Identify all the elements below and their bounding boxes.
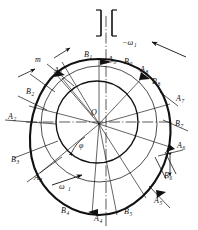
point-letter: B xyxy=(84,50,89,59)
point-subscript: 1 xyxy=(90,54,93,60)
point-subscript: 2 xyxy=(32,91,35,97)
phi-label: φ xyxy=(79,141,84,150)
point-b-b0: B0 xyxy=(124,57,133,67)
point-letter: B xyxy=(124,207,129,216)
point-subscript: 4 xyxy=(67,210,70,216)
point-subscript: 6 xyxy=(170,175,173,181)
point-subscript: 5 xyxy=(160,200,163,206)
fixed-ground-hatch-icon xyxy=(96,10,117,36)
point-letter: A xyxy=(153,196,159,205)
svg-text:ω: ω xyxy=(59,182,65,191)
point-subscript: 4 xyxy=(100,218,103,224)
point-subscript: 2 xyxy=(14,116,17,122)
omega-drive-arrow xyxy=(52,175,82,185)
point-a-a5: A5 xyxy=(153,196,163,206)
point-letter: B xyxy=(61,206,66,215)
svg-text:1: 1 xyxy=(68,186,71,192)
point-subscript: 7 xyxy=(182,98,185,104)
point-b-b7: B7 xyxy=(175,119,184,129)
point-letter: A xyxy=(107,55,113,64)
point-subscript: 3 xyxy=(16,159,20,165)
point-letter: A xyxy=(175,94,181,103)
point-letter: B xyxy=(26,87,31,96)
cam-outer-profile xyxy=(30,59,171,215)
point-subscript: 7 xyxy=(181,123,184,129)
point-b-b1: B1 xyxy=(84,50,93,60)
centre-label: O xyxy=(91,108,97,117)
point-a-a6: A6 xyxy=(176,141,186,151)
point-letter: A xyxy=(93,214,99,223)
omega-driven-arrow xyxy=(152,42,186,57)
point-subscript: 0 xyxy=(130,61,133,67)
point-a-a2: A2 xyxy=(7,112,17,122)
point-letter: B xyxy=(152,77,157,86)
point-subscript: 1 xyxy=(60,70,63,76)
omega-drive-label: ω 1 xyxy=(59,182,71,192)
point-subscript: 3 xyxy=(39,177,43,183)
point-letter: B xyxy=(124,57,129,66)
point-letter: A xyxy=(139,65,145,74)
point-a-a8: A8 xyxy=(139,65,149,75)
svg-text:1: 1 xyxy=(134,42,137,48)
point-letter: A xyxy=(7,112,13,121)
point-letter: B xyxy=(164,171,169,180)
cam-diagram-svg: m O φ −ω 1 ω 1 A0A1A2A3A4A5A6A7A8 B0B1B2… xyxy=(0,0,198,230)
point-subscript: 0 xyxy=(114,59,117,65)
module-label: m xyxy=(35,55,41,64)
point-subscript: 8 xyxy=(146,69,149,75)
point-a-a1: A1 xyxy=(53,66,63,76)
point-letter: B xyxy=(11,155,16,164)
point-subscript: 5 xyxy=(130,211,133,217)
omega-driven-label: −ω 1 xyxy=(122,38,137,48)
point-a-a7: A7 xyxy=(175,94,185,104)
point-b-b6: B6 xyxy=(164,171,173,181)
centre-leader-line xyxy=(62,78,93,116)
point-b-b2: B2 xyxy=(26,87,35,97)
svg-text:−ω: −ω xyxy=(122,38,133,47)
point-b-b8: B8 xyxy=(152,77,161,87)
point-b-b5: B5 xyxy=(124,207,133,217)
point-letter: A xyxy=(33,173,39,182)
point-a-a3: A3 xyxy=(33,173,43,183)
point-subscript: 6 xyxy=(183,145,186,151)
normal-tick-marks xyxy=(5,64,188,208)
point-a-a0: A0 xyxy=(107,55,117,65)
point-letter: B xyxy=(175,119,180,128)
figure-canvas: m O φ −ω 1 ω 1 A0A1A2A3A4A5A6A7A8 B0B1B2… xyxy=(0,0,198,230)
point-letter: A xyxy=(176,141,182,150)
point-letter: A xyxy=(53,66,59,75)
point-subscript: 8 xyxy=(158,81,161,87)
